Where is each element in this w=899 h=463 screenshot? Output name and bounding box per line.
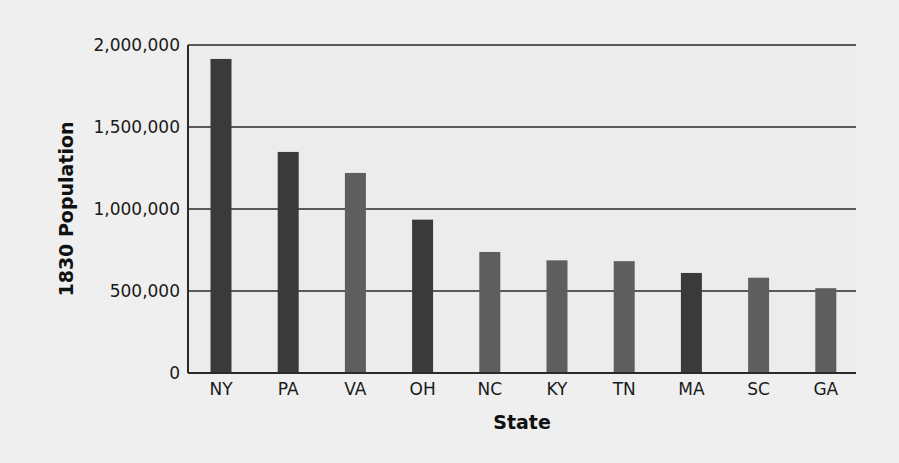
x-tick-label: NY [209,379,233,399]
bar-ma [681,273,702,373]
bar-ky [547,260,568,373]
bar-ga [815,288,836,373]
x-axis-title: State [493,411,551,433]
bar-sc [748,278,769,373]
x-tick-label: SC [747,379,770,399]
x-tick-label: NC [478,379,503,399]
bar-pa [278,152,299,373]
y-tick-label: 1,500,000 [93,117,180,137]
y-tick-label: 0 [169,363,180,383]
bar-nc [479,252,500,373]
y-tick-labels: 0500,0001,000,0001,500,0002,000,000 [93,35,180,383]
y-tick-label: 2,000,000 [93,35,180,55]
x-tick-label: GA [813,379,838,399]
bar-ny [211,59,232,373]
y-tick-label: 1,000,000 [93,199,180,219]
x-tick-label: OH [410,379,436,399]
x-tick-labels: NYPAVAOHNCKYTNMASCGA [209,379,838,399]
x-tick-label: KY [547,379,569,399]
x-tick-label: VA [344,379,367,399]
x-tick-label: MA [678,379,705,399]
x-tick-label: PA [278,379,299,399]
y-axis-title: 1830 Population [55,121,77,296]
bar-va [345,173,366,373]
bar-oh [412,220,433,373]
bar-tn [614,261,635,373]
x-tick-label: TN [612,379,636,399]
bar-chart: 0500,0001,000,0001,500,0002,000,000 NYPA… [0,0,899,463]
y-tick-label: 500,000 [110,281,180,301]
